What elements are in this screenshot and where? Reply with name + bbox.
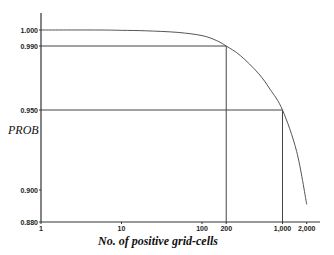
x-axis-label: No. of positive grid-cells — [97, 234, 218, 248]
y-tick-label: 1.000 — [20, 27, 38, 34]
y-tick-label: 0.990 — [20, 43, 38, 50]
y-tick-label: 0.880 — [20, 219, 38, 226]
y-tick-label: 0.950 — [20, 107, 38, 114]
x-tick-label: 10 — [118, 225, 126, 232]
probability-curve — [41, 30, 307, 204]
x-tick-label: 1 — [39, 225, 43, 232]
x-tick-label: 1,000 — [274, 225, 292, 233]
y-axis-label: PROB — [7, 123, 39, 137]
x-tick-label: 200 — [220, 225, 232, 232]
y-tick-label: 0.900 — [20, 187, 38, 194]
x-tick-label: 2,000 — [298, 225, 316, 233]
plot-area: 1.0000.9900.9500.9000.8801101002001,0002… — [20, 13, 320, 233]
probability-chart: 1.0000.9900.9500.9000.8801101002001,0002… — [0, 0, 334, 255]
x-tick-label: 100 — [196, 225, 208, 232]
